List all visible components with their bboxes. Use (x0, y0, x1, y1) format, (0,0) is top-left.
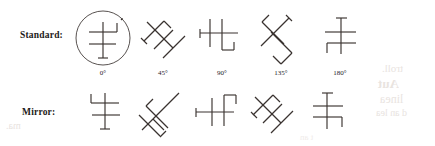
bleed-through-line-3: linea (380, 92, 403, 107)
bleed-through-line-5: ma. (6, 120, 21, 131)
mental-rotation-figure: Standard: Mirror: (0, 0, 435, 146)
stimulus-standard-0 (72, 8, 134, 70)
bleed-through-line-2: Aut (378, 76, 399, 92)
bleed-through-line-6: t an (300, 132, 313, 142)
bleed-through-line-4: d an lea (376, 107, 407, 118)
stimulus-mirror-180 (309, 85, 371, 146)
stimulus-standard-90 (192, 8, 254, 70)
row-label-mirror: Mirror: (22, 107, 55, 117)
stimulus-standard-135 (251, 8, 313, 70)
angle-label-135: 135° (261, 69, 301, 77)
stimulus-mirror-45 (133, 85, 195, 146)
stimulus-standard-180 (311, 8, 373, 70)
angle-label-90: 90° (202, 69, 242, 77)
stimulus-standard-45 (133, 8, 195, 70)
stimulus-mirror-0 (72, 85, 134, 146)
angle-label-45: 45° (143, 69, 183, 77)
angle-label-0: 0° (83, 69, 123, 77)
bleed-through-line-1: troll. (382, 62, 403, 74)
stimulus-mirror-90 (192, 85, 254, 146)
angle-label-180: 180° (320, 69, 360, 77)
row-label-standard: Standard: (20, 30, 63, 40)
